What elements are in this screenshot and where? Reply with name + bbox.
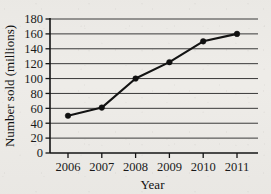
data-point-2010	[200, 39, 206, 45]
data-point-2008	[133, 76, 139, 82]
data-point-2006	[65, 113, 71, 119]
ytick-label-80: 80	[31, 87, 44, 101]
xtick-label-2011: 2011	[225, 160, 250, 174]
xtick-label-2006: 2006	[56, 160, 81, 174]
x-axis-title: Year	[141, 177, 166, 192]
xtick-label-2007: 2007	[89, 160, 114, 174]
ytick-label-160: 160	[24, 27, 43, 41]
ytick-label-0: 0	[37, 146, 43, 160]
ytick-label-100: 100	[24, 72, 43, 86]
line-chart: 0204060801001201401601802006200720082009…	[0, 0, 271, 194]
ytick-label-180: 180	[24, 12, 43, 26]
ytick-label-140: 140	[24, 42, 43, 56]
xtick-label-2008: 2008	[123, 160, 148, 174]
ytick-label-20: 20	[31, 131, 44, 145]
data-point-2009	[167, 59, 173, 65]
ytick-label-60: 60	[31, 102, 44, 116]
data-point-2011	[234, 31, 240, 37]
chart-container: 0204060801001201401601802006200720082009…	[0, 0, 271, 194]
ytick-label-40: 40	[31, 117, 44, 131]
xtick-label-2010: 2010	[191, 160, 216, 174]
y-axis-title: Number sold (millions)	[2, 25, 17, 147]
data-point-2007	[99, 105, 105, 111]
ytick-label-120: 120	[24, 57, 43, 71]
series-line-number-sold	[68, 34, 237, 116]
xtick-label-2009: 2009	[157, 160, 182, 174]
